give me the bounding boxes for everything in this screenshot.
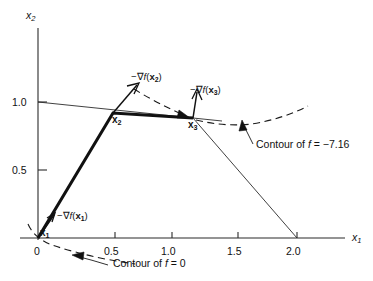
figure-container: x2 x1 0 0.5 1.0 1.5 2.0 0.5 1.0 x1 x2 x3… [0, 0, 373, 281]
point-label-x3: x3 [188, 120, 198, 131]
y-tick-label-0.5: 0.5 [12, 165, 27, 176]
gradient-arc-x2-head [177, 110, 190, 118]
gradient-arc-x2 [134, 89, 186, 116]
x-tick-label-1.5: 1.5 [227, 246, 242, 257]
contour-label-f-negative: Contour of f = −7.16 [256, 139, 349, 150]
x-tick-label-0.5: 0.5 [104, 246, 119, 257]
x-axis-ticks [115, 232, 297, 238]
gradient-arrow-x2-head [127, 83, 139, 94]
x-tick-label-0: 0 [34, 246, 40, 257]
contour-f-negative-leader-group [239, 120, 253, 144]
contour-f-negative-curve [196, 106, 308, 125]
x-tick-label-2.0: 2.0 [286, 246, 301, 257]
gradient-label-x2: −∇f(x2) [131, 72, 162, 84]
y-tick-label-1.0: 1.0 [12, 97, 27, 108]
x-axis-label: x1 [352, 232, 361, 245]
x-tick-label-1.0: 1.0 [161, 246, 176, 257]
contour-f-0-leader-head [72, 252, 84, 260]
point-label-x2: x2 [112, 115, 122, 126]
y-axis-ticks [38, 102, 47, 170]
contour-f-negative-leader-head [239, 120, 247, 131]
contour-label-f-0: Contour of f = 0 [113, 258, 186, 269]
axes-group [20, 28, 345, 240]
gradient-arrow-x2-group [113, 83, 139, 113]
y-axis-label: x2 [26, 10, 35, 23]
gradient-label-x1: −∇f(x1) [57, 211, 88, 223]
gradient-label-x3: −∇f(x3) [190, 85, 221, 97]
point-label-x1: x1 [40, 228, 50, 239]
gradient-arrow-x2 [113, 85, 137, 113]
constraint-line-lower [193, 118, 297, 238]
